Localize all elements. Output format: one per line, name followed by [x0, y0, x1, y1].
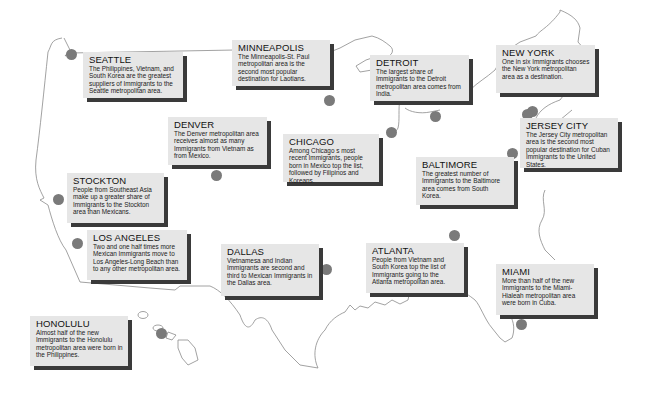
- card-title: DETROIT: [376, 58, 464, 68]
- card-detroit: DETROIT The largest share of Immigrants …: [370, 55, 469, 101]
- card-title: MIAMI: [502, 267, 589, 277]
- card-text: The Philippines, Vietnam, and South Kore…: [89, 65, 178, 95]
- card-title: NEW YORK: [502, 48, 590, 58]
- city-marker-los-angeles[interactable]: [72, 238, 83, 249]
- card-text: People from Southeast Asia make up a gre…: [73, 186, 159, 216]
- card-title: SEATTLE: [89, 55, 178, 65]
- card-title: DENVER: [174, 120, 262, 130]
- card-title: BALTIMORE: [422, 160, 509, 170]
- card-text: Almost half of the new Immigrants to the…: [36, 329, 123, 359]
- card-title: CHICAGO: [289, 137, 374, 147]
- card-miami: MIAMI More than half of the new Immigran…: [496, 264, 594, 315]
- card-text: The Minneapolis-St. Paul metropolitan ar…: [238, 53, 325, 83]
- city-marker-honolulu[interactable]: [156, 328, 167, 339]
- card-stockton: STOCKTON People from Southeast Asia make…: [67, 173, 164, 223]
- city-marker-chicago[interactable]: [386, 127, 397, 138]
- card-title: HONOLULU: [36, 319, 123, 329]
- city-marker-minneapolis[interactable]: [324, 95, 335, 106]
- card-text: Two and one half times more Mexican Immi…: [93, 243, 182, 273]
- card-chicago: CHICAGO Among Chicago s most recent Immi…: [283, 134, 379, 182]
- city-marker-dallas[interactable]: [321, 264, 332, 275]
- card-text: People from Vietnam and South Korea top …: [372, 256, 459, 286]
- card-honolulu: HONOLULU Almost half of the new Immigran…: [30, 316, 128, 366]
- city-marker-miami[interactable]: [516, 319, 527, 330]
- card-seattle: SEATTLE The Philippines, Vietnam, and So…: [83, 52, 183, 98]
- card-title: STOCKTON: [73, 176, 159, 186]
- card-text: The Denver metropolitan area receives al…: [174, 130, 262, 160]
- card-title: MINNEAPOLIS: [238, 43, 325, 53]
- city-marker-stockton[interactable]: [53, 194, 64, 205]
- card-los-angeles: LOS ANGELES Two and one half times more …: [87, 230, 187, 280]
- city-marker-atlanta[interactable]: [449, 230, 460, 241]
- card-title: ATLANTA: [372, 246, 459, 256]
- card-dallas: DALLAS Vietnamesa and Indian Immigrants …: [221, 244, 319, 296]
- card-title: LOS ANGELES: [93, 233, 182, 243]
- card-text: Vietnamesa and Indian Immigrants are sec…: [227, 257, 314, 287]
- city-marker-denver[interactable]: [211, 170, 222, 181]
- card-text: Among Chicago s most recent Immigrants, …: [289, 147, 374, 184]
- city-marker-detroit[interactable]: [430, 111, 441, 122]
- card-minneapolis: MINNEAPOLIS The Minneapolis-St. Paul met…: [232, 40, 330, 86]
- card-new-york: NEW YORK One in six Immigrants chooses t…: [496, 45, 595, 93]
- card-title: DALLAS: [227, 247, 314, 257]
- card-text: One in six Immigrants chooses the New Yo…: [502, 58, 590, 80]
- card-text: The Jersey City metropolitan area is the…: [526, 131, 613, 168]
- card-text: More than half of the new Immigrants to …: [502, 277, 589, 307]
- card-jersey-city: JERSEY CITY The Jersey City metropolitan…: [520, 118, 618, 168]
- card-text: The largest share of Immigrants to the D…: [376, 68, 464, 98]
- card-text: The greatest number of Immigrants to the…: [422, 170, 509, 200]
- card-denver: DENVER The Denver metropolitan area rece…: [168, 117, 267, 165]
- city-marker-seattle[interactable]: [66, 49, 77, 60]
- card-atlanta: ATLANTA People from Vietnam and South Ko…: [366, 243, 464, 293]
- card-baltimore: BALTIMORE The greatest number of Immigra…: [416, 157, 514, 205]
- card-title: JERSEY CITY: [526, 121, 613, 131]
